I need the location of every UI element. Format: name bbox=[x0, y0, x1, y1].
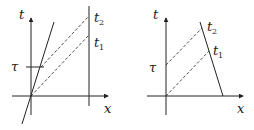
right-tau-label: τ bbox=[149, 60, 157, 75]
left-worldline-steep bbox=[22, 22, 54, 124]
right-t2-sub: 2 bbox=[212, 27, 217, 36]
right-x-label: x bbox=[237, 101, 245, 116]
left-t-label: t bbox=[19, 7, 25, 22]
left-panel: t x τ t 2 t 1 bbox=[11, 6, 112, 124]
left-t1-sub: 1 bbox=[99, 43, 104, 52]
left-t2-sub: 2 bbox=[99, 18, 104, 27]
spacetime-diagram: t x τ t 2 t 1 t x τ t 2 t 1 bbox=[0, 0, 254, 130]
right-t1-sub: 1 bbox=[218, 51, 223, 60]
right-dashed-lower bbox=[166, 51, 209, 96]
left-x-label: x bbox=[104, 101, 112, 116]
right-panel: t x τ t 2 t 1 bbox=[147, 7, 245, 116]
right-dashed-upper bbox=[166, 28, 202, 65]
right-t-label: t bbox=[153, 7, 159, 22]
left-dashed-lower bbox=[31, 35, 89, 96]
left-tau-label: τ bbox=[11, 59, 19, 74]
